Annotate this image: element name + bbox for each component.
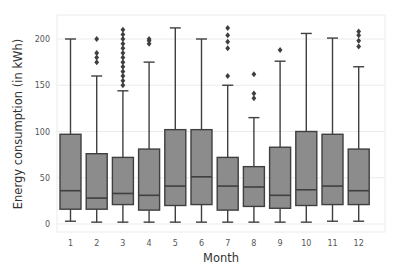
x-tick-label: 1 [68,239,73,248]
y-tick-label: 200 [35,35,50,44]
y-tick-label: 50 [40,174,50,183]
y-tick-label: 100 [35,128,50,137]
y-axis-ticks: 050100150200 [35,35,50,229]
x-tick-label: 2 [94,239,99,248]
y-tick-label: 150 [35,81,50,90]
x-axis-ticks: 123456789101112 [68,239,364,248]
x-axis-label: Month [203,251,239,265]
x-tick-label: 4 [147,239,152,248]
x-tick-label: 5 [173,239,178,248]
x-tick-label: 7 [225,239,230,248]
x-tick-label: 8 [251,239,256,248]
x-tick-label: 10 [301,239,311,248]
x-tick-label: 6 [199,239,204,248]
x-tick-label: 9 [278,239,283,248]
y-tick-label: 0 [45,220,50,229]
x-tick-label: 3 [120,239,125,248]
box-plot-chart: 050100150200 123456789101112 Month Energ… [0,0,402,279]
x-tick-label: 11 [327,239,337,248]
x-tick-label: 12 [354,239,364,248]
y-axis-label: Energy consumption (in kWh) [11,39,25,209]
